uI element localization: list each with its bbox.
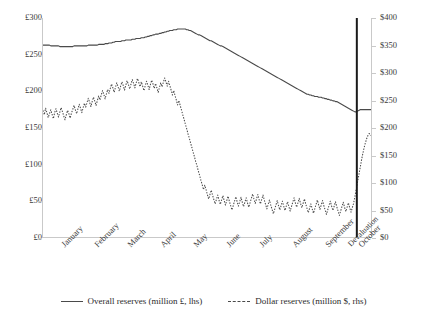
left-tick-50: £50 — [8, 196, 42, 205]
left-tick-mark — [38, 238, 42, 239]
right-tick-400: $400 — [380, 13, 420, 22]
right-tick-250: $250 — [380, 96, 420, 105]
right-tick-mark — [372, 156, 376, 157]
left-tick-0: £0 — [8, 233, 42, 242]
right-tick-200: $200 — [380, 123, 420, 132]
legend-swatch-solid-icon — [61, 301, 83, 302]
legend-item: Dollar reserves (million $, rhs) — [228, 296, 366, 306]
right-tick-mark — [372, 18, 376, 19]
right-tick-300: $300 — [380, 68, 420, 77]
legend-item: Overall reserves (million £, lhs) — [61, 296, 203, 306]
right-tick-100: $100 — [380, 178, 420, 187]
right-tick-50: $50 — [380, 206, 420, 215]
right-tick-mark — [372, 128, 376, 129]
left-tick-300: £300 — [8, 13, 42, 22]
legend-label: Overall reserves (million £, lhs) — [88, 296, 203, 306]
legend-label: Dollar reserves (million $, rhs) — [255, 296, 366, 306]
plot-area — [42, 18, 372, 238]
right-tick-mark — [372, 183, 376, 184]
left-tick-150: £150 — [8, 123, 42, 132]
right-tick-mark — [372, 101, 376, 102]
right-tick-mark — [372, 46, 376, 47]
right-tick-0: $0 — [380, 233, 420, 242]
left-tick-100: £100 — [8, 160, 42, 169]
right-tick-150: $150 — [380, 151, 420, 160]
left-tick-250: £250 — [8, 50, 42, 59]
right-tick-mark — [372, 211, 376, 212]
legend-swatch-dotted-icon — [228, 301, 250, 302]
left-tick-200: £200 — [8, 86, 42, 95]
plot-svg — [43, 18, 372, 238]
right-tick-350: $350 — [380, 41, 420, 50]
chart-legend: Overall reserves (million £, lhs)Dollar … — [0, 296, 427, 306]
reserves-chart: £0£50£100£150£200£250£300 $0$50$100$150$… — [0, 0, 427, 322]
right-tick-mark — [372, 73, 376, 74]
series-dollar-reserves-line — [43, 78, 372, 216]
